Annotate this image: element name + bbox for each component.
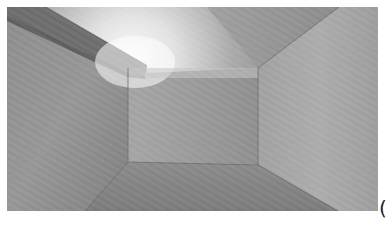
partial-corner-icon: ( — [379, 198, 387, 218]
screenshot-frame: ( — [0, 0, 388, 233]
room-render-viewport — [7, 7, 378, 211]
room-scene — [7, 7, 378, 211]
moire-overlay — [7, 7, 378, 211]
